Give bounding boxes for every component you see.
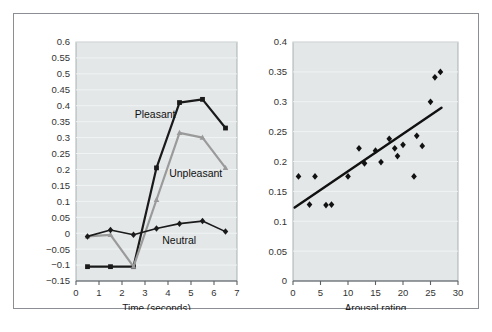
x-tick-label-left: 3	[142, 287, 147, 298]
y-tick-label-left: 0.5	[57, 68, 70, 79]
y-tick-label-right: 0.3	[274, 96, 287, 107]
scatter-chart: 00.050.10.150.20.250.30.350.405101520253…	[247, 14, 480, 310]
data-point-pleasant	[154, 165, 159, 170]
x-tick-label-right: 5	[318, 287, 323, 298]
y-tick-label-left: 0.35	[52, 116, 71, 127]
x-tick-label-right: 25	[425, 287, 436, 298]
data-point-pleasant	[85, 264, 90, 269]
x-tick-label-right: 20	[398, 287, 409, 298]
data-point-pleasant	[177, 100, 182, 105]
y-tick-label-left: −0.15	[46, 275, 70, 286]
x-tick-label-left: 7	[234, 287, 239, 298]
data-point-pleasant	[223, 126, 228, 131]
x-tick-label-right: 10	[343, 287, 354, 298]
y-tick-label-left: 0.6	[57, 36, 70, 47]
series-label-neutral: Neutral	[162, 234, 196, 246]
y-tick-label-left: 0.1	[57, 196, 70, 207]
chart-panel-scatter: 00.050.10.150.20.250.30.350.405101520253…	[247, 14, 480, 310]
y-tick-label-left: −0.1	[51, 259, 70, 270]
y-tick-label-left: 0	[65, 228, 70, 239]
x-axis-title-right: Arousal rating	[345, 303, 407, 310]
x-tick-label-right: 15	[370, 287, 381, 298]
y-tick-label-left: −0.05	[46, 244, 70, 255]
x-tick-label-left: 5	[188, 287, 193, 298]
y-tick-label-right: 0	[282, 275, 287, 286]
y-tick-label-left: 0.55	[52, 52, 71, 63]
x-tick-label-left: 4	[165, 287, 170, 298]
x-tick-label-left: 2	[119, 287, 124, 298]
y-tick-label-right: 0.25	[269, 126, 288, 137]
y-tick-label-left: 0.45	[52, 84, 71, 95]
chart-panel-line: −0.15−0.1−0.0500.050.10.150.20.250.30.35…	[14, 14, 247, 310]
y-tick-label-left: 0.15	[52, 180, 71, 191]
data-point-pleasant	[108, 264, 113, 269]
y-tick-label-left: 0.25	[52, 148, 71, 159]
series-label-unpleasant: Unpleasant	[169, 167, 222, 179]
series-label-pleasant: Pleasant	[135, 108, 176, 120]
figure-frame: −0.15−0.1−0.0500.050.10.150.20.250.30.35…	[13, 13, 479, 309]
x-tick-label-left: 0	[73, 287, 78, 298]
x-tick-label-right: 30	[453, 287, 464, 298]
y-tick-label-left: 0.4	[57, 100, 70, 111]
x-tick-label-left: 6	[211, 287, 216, 298]
y-tick-label-right: 0.2	[274, 156, 287, 167]
x-tick-label-left: 1	[96, 287, 101, 298]
y-tick-label-right: 0.35	[269, 66, 288, 77]
y-tick-label-right: 0.1	[274, 216, 287, 227]
y-tick-label-right: 0.05	[269, 246, 288, 257]
plot-area-left	[76, 42, 237, 281]
y-tick-label-right: 0.4	[274, 36, 287, 47]
x-tick-label-right: 0	[290, 287, 295, 298]
y-tick-label-right: 0.15	[269, 186, 288, 197]
x-axis-title-left: Time (seconds)	[122, 303, 191, 310]
y-tick-label-left: 0.05	[52, 212, 71, 223]
line-chart: −0.15−0.1−0.0500.050.10.150.20.250.30.35…	[14, 14, 247, 310]
y-tick-label-left: 0.3	[57, 132, 70, 143]
data-point-pleasant	[200, 97, 205, 102]
y-tick-label-left: 0.2	[57, 164, 70, 175]
